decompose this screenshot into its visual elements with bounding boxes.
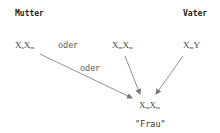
arrows-layer bbox=[0, 0, 220, 133]
mother-genotype-option-2: XmXm bbox=[112, 41, 133, 50]
allele-subscript: m bbox=[30, 45, 34, 50]
father-genotype: XmY bbox=[183, 41, 200, 50]
allele-subscript: m bbox=[129, 45, 133, 50]
mother-heading: Mutter bbox=[15, 10, 44, 18]
arrow-mother-option2-to-offspring bbox=[125, 56, 140, 94]
arrow-mother-option1-to-offspring bbox=[40, 54, 132, 98]
inheritance-diagram: Mutter Vater XaXm oder XmXm XmY oder XmX… bbox=[0, 0, 220, 133]
offspring-label: "Frau" bbox=[135, 120, 166, 129]
mother-genotype-option-1: XaXm bbox=[15, 41, 34, 50]
allele-base: Y bbox=[193, 40, 200, 50]
allele-subscript: m bbox=[156, 105, 160, 110]
arrow-label-oder: oder bbox=[80, 65, 100, 74]
father-heading: Vater bbox=[183, 10, 207, 18]
offspring-genotype: XmXm bbox=[139, 101, 160, 110]
arrow-father-to-offspring bbox=[156, 56, 183, 94]
mother-options-separator: oder bbox=[58, 42, 78, 51]
